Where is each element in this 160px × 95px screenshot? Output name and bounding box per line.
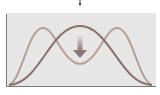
distribution-diagram	[0, 0, 160, 95]
top-marker-icon	[79, 0, 82, 6]
